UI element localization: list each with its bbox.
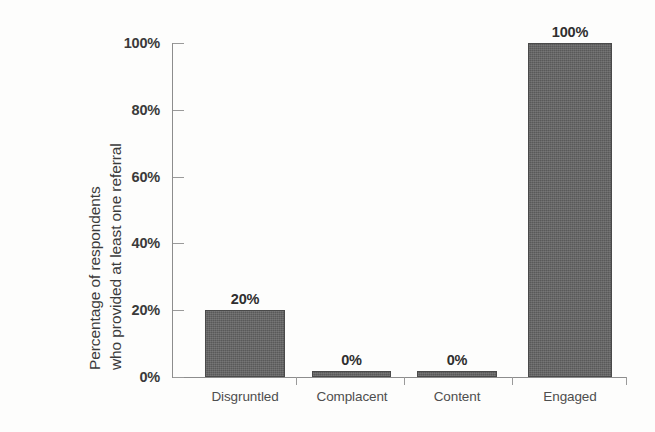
y-axis-tick-label-0: 0%	[139, 369, 160, 385]
y-axis-tick-20: 20%	[173, 310, 184, 311]
y-axis-tick-60: 60%	[173, 177, 184, 178]
y-axis-title-line-1: Percentage of respondents	[84, 40, 105, 370]
bar-value-content: 0%	[447, 352, 468, 368]
bar-value-disgruntled: 20%	[231, 291, 259, 307]
bar-value-engaged: 100%	[552, 24, 588, 40]
x-axis-line	[172, 377, 627, 378]
plot-area: 0% 20% 40% 60% 80% 100% 20% 0% 0%	[172, 43, 627, 377]
x-axis-label-content: Content	[434, 389, 481, 404]
y-axis-tick-40: 40%	[173, 243, 184, 244]
y-axis-tick-100: 100%	[173, 43, 184, 44]
y-axis-tick-label-80: 80%	[132, 102, 160, 118]
bar-value-complacent: 0%	[341, 352, 362, 368]
bar-chart: Percentage of respondents who provided a…	[0, 0, 655, 432]
y-axis-tick-label-100: 100%	[124, 35, 160, 51]
x-axis-label-disgruntled: Disgruntled	[211, 389, 278, 404]
y-axis-tick-label-60: 60%	[132, 169, 160, 185]
bar-disgruntled[interactable]: 20%	[205, 310, 285, 377]
y-axis-tick-label-40: 40%	[132, 235, 160, 251]
x-axis-tick-2	[404, 377, 405, 385]
y-axis-tick-0: 0%	[173, 377, 184, 378]
x-axis-tick-3	[512, 377, 513, 385]
x-axis-label-engaged: Engaged	[543, 389, 596, 404]
x-axis-tick-1	[296, 377, 297, 385]
x-axis-label-complacent: Complacent	[316, 389, 387, 404]
y-axis-tick-label-20: 20%	[132, 302, 160, 318]
bar-complacent[interactable]: 0%	[312, 371, 391, 377]
y-axis-tick-80: 80%	[173, 110, 184, 111]
y-axis-title: Percentage of respondents who provided a…	[0, 0, 90, 432]
x-axis-tick-4	[626, 377, 627, 385]
bar-content[interactable]: 0%	[417, 371, 497, 377]
bar-engaged[interactable]: 100%	[528, 43, 612, 377]
y-axis-title-line-2: who provided at least one referral	[105, 40, 126, 370]
y-axis-line	[172, 43, 173, 377]
